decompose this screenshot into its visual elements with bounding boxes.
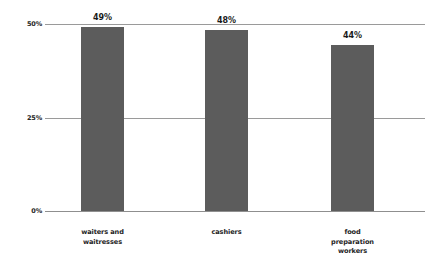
bar-food-preparation-workers[interactable]: [331, 45, 374, 211]
category-label-cashiers: cashiers: [186, 228, 267, 238]
bar-cashiers[interactable]: [205, 30, 248, 211]
bar-value-label-food-preparation-workers: 44%: [322, 32, 383, 40]
y-axis-tick-label-0: 0%: [18, 208, 42, 215]
bar-waiters-and-waitresses[interactable]: [81, 27, 124, 211]
bar-value-label-cashiers: 48%: [196, 17, 257, 25]
gridline-0-baseline: [45, 211, 425, 212]
y-axis-tick-label-25: 25%: [18, 115, 42, 122]
bar-chart: 50% 25% 0% 49% waiters and waitresses 48…: [0, 0, 436, 274]
bar-value-label-waiters-and-waitresses: 49%: [72, 14, 133, 22]
plot-area: 50% 25% 0% 49% waiters and waitresses 48…: [0, 0, 436, 274]
category-label-waiters-and-waitresses: waiters and waitresses: [62, 228, 143, 247]
y-axis-tick-label-50: 50%: [18, 21, 42, 28]
category-label-food-preparation-workers: food preparation workers: [312, 228, 393, 257]
